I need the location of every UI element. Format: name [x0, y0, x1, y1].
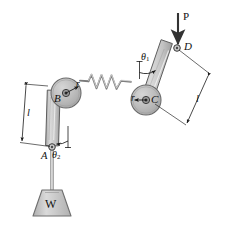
spring: [80, 74, 131, 89]
label-angle-theta2: θ2: [52, 150, 60, 161]
label-point-b: B: [54, 93, 61, 104]
label-radius-left: r: [76, 80, 80, 90]
label-point-a: A: [41, 151, 47, 162]
label-point-c: C: [151, 94, 158, 105]
theta2-subscript: 2: [57, 153, 60, 160]
label-force-p: P: [183, 11, 189, 22]
label-point-d: D: [184, 41, 192, 52]
mechanism-diagram: P D C B A W r r l l θ1 θ2: [0, 0, 225, 229]
label-weight-w: W: [45, 198, 56, 210]
label-angle-theta1: θ1: [141, 52, 149, 63]
theta1-subscript: 1: [146, 55, 149, 62]
label-length-left: l: [27, 108, 30, 119]
label-radius-right: r: [131, 94, 135, 104]
diagram-canvas: [0, 0, 225, 229]
label-length-right: l: [196, 94, 199, 105]
